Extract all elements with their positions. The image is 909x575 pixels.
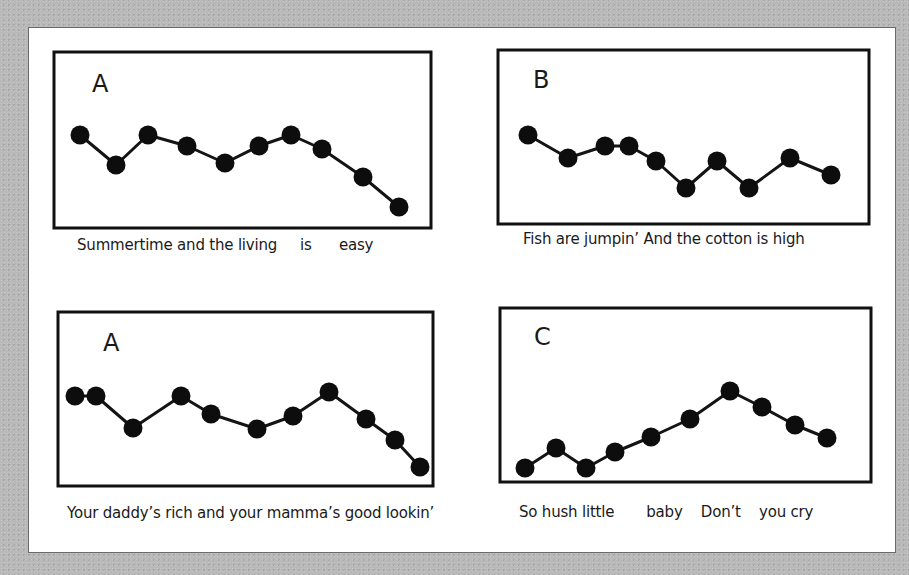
- panel-label: B: [533, 66, 549, 94]
- note-dot: [250, 137, 269, 156]
- note-dot: [818, 429, 837, 448]
- panel-label: A: [92, 70, 109, 98]
- note-dot: [282, 126, 301, 145]
- panel-b: B: [498, 50, 869, 224]
- note-dot: [411, 458, 430, 477]
- note-dot: [620, 137, 639, 156]
- note-dot: [647, 152, 666, 171]
- note-dot: [124, 419, 143, 438]
- note-dot: [87, 387, 106, 406]
- note-dot: [354, 168, 373, 187]
- note-dot: [320, 383, 339, 402]
- note-dot: [559, 149, 578, 168]
- contour-line: [525, 391, 827, 468]
- panel-a-1: A: [54, 52, 431, 228]
- lyric-caption: So hush little baby Don’t you cry: [519, 503, 813, 521]
- panel-frame: [498, 50, 869, 224]
- note-dot: [577, 459, 596, 478]
- note-dot: [386, 431, 405, 450]
- contour-line: [80, 135, 399, 207]
- lyric-caption: Your daddy’s rich and your mamma’s good …: [67, 504, 434, 522]
- note-dot: [313, 140, 332, 159]
- note-dot: [781, 149, 800, 168]
- note-dot: [822, 166, 841, 185]
- note-dot: [178, 137, 197, 156]
- note-dot: [516, 459, 535, 478]
- note-dot: [202, 405, 221, 424]
- note-dot: [66, 387, 85, 406]
- note-dot: [172, 387, 191, 406]
- note-dot: [71, 126, 90, 145]
- contour-figure: ABAC: [0, 0, 909, 575]
- note-dot: [107, 156, 126, 175]
- panel-label: A: [103, 329, 120, 357]
- note-dot: [681, 410, 700, 429]
- note-dot: [708, 152, 727, 171]
- note-dot: [642, 428, 661, 447]
- panel-a-2: A: [58, 312, 433, 486]
- note-dot: [596, 137, 615, 156]
- note-dot: [248, 420, 267, 439]
- note-dot: [139, 126, 158, 145]
- panel-frame: [54, 52, 431, 228]
- note-dot: [677, 179, 696, 198]
- note-dot: [547, 439, 566, 458]
- note-dot: [606, 443, 625, 462]
- note-dot: [786, 416, 805, 435]
- note-dot: [721, 382, 740, 401]
- note-dot: [519, 126, 538, 145]
- note-dot: [390, 198, 409, 217]
- note-dot: [216, 154, 235, 173]
- panel-c: C: [500, 308, 871, 482]
- note-dot: [740, 179, 759, 198]
- panel-label: C: [534, 323, 551, 351]
- lyric-caption: Fish are jumpin’ And the cotton is high: [523, 230, 805, 248]
- lyric-caption: Summertime and the living is easy: [77, 236, 373, 254]
- note-dot: [357, 410, 376, 429]
- note-dot: [284, 407, 303, 426]
- note-dot: [753, 398, 772, 417]
